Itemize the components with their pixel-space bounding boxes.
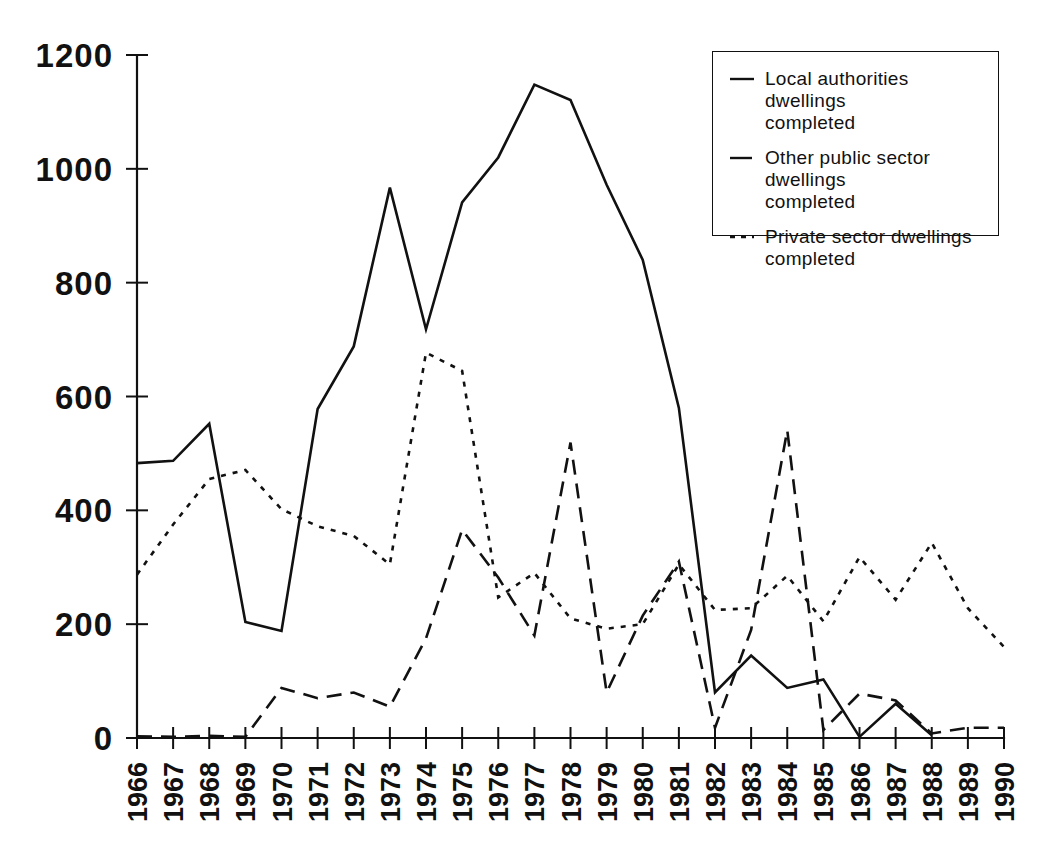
x-axis-tick-label: 1974 (412, 762, 442, 822)
chart-legend: Local authorities dwellings completedOth… (712, 51, 999, 236)
x-axis-tick-label: 1976 (484, 762, 514, 822)
x-axis-tick-label: 1966 (123, 762, 153, 822)
chart-root: 020040060080010001200 196619671968196919… (0, 0, 1045, 862)
x-axis-tick-label: 1970 (268, 762, 298, 822)
legend-item-label: Local authorities dwellings completed (765, 68, 984, 134)
x-axis-tick-label: 1968 (195, 762, 225, 822)
x-axis-tick-label: 1971 (304, 762, 334, 822)
x-axis-tick-label: 1990 (990, 762, 1020, 822)
legend-item-1[interactable]: Other public sector dwellings completed (729, 147, 984, 213)
x-axis-tick-label: 1988 (918, 762, 948, 822)
x-axis-tick-label: 1967 (159, 762, 189, 822)
x-axis-tick-label: 1982 (701, 762, 731, 822)
x-axis-tick-label: 1969 (231, 762, 261, 822)
x-axis-tick-label: 1978 (557, 762, 587, 822)
dashed-line-swatch-icon (729, 147, 755, 169)
x-axis-tick-label: 1984 (773, 762, 803, 822)
series-path-2 (137, 353, 1004, 647)
x-axis-tick-label: 1987 (882, 762, 912, 822)
legend-item-0[interactable]: Local authorities dwellings completed (729, 68, 984, 134)
legend-item-label: Other public sector dwellings completed (765, 147, 984, 213)
y-axis-tick-labels: 020040060080010001200 (36, 37, 113, 757)
y-axis-tick-label: 800 (55, 265, 113, 302)
y-axis-tick-label: 400 (55, 492, 113, 529)
x-axis-tick-label: 1989 (954, 762, 984, 822)
x-axis-tick-label: 1986 (846, 762, 876, 822)
y-axis-tick-label: 0 (94, 720, 113, 757)
y-axis-tick-label: 1200 (36, 37, 113, 74)
y-axis-tick-label: 600 (55, 379, 113, 416)
x-axis-tick-label: 1975 (448, 762, 478, 822)
x-axis-tick-label: 1972 (340, 762, 370, 822)
y-axis-group: 020040060080010001200 (36, 37, 148, 757)
y-axis-tick-label: 200 (55, 606, 113, 643)
x-axis-tick-label: 1979 (593, 762, 623, 822)
series-path-1 (137, 430, 1004, 737)
x-axis-tick-label: 1985 (809, 762, 839, 822)
x-axis-tick-label: 1981 (665, 762, 695, 822)
legend-item-label: Private sector dwellings completed (765, 226, 972, 270)
dotted-line-swatch-icon (729, 226, 755, 248)
solid-line-swatch-icon (729, 68, 755, 90)
x-axis-tick-label: 1983 (737, 762, 767, 822)
y-axis-tick-label: 1000 (36, 151, 113, 188)
x-axis-tick-label: 1973 (376, 762, 406, 822)
x-axis-tick-label: 1980 (629, 762, 659, 822)
x-axis-tick-label: 1977 (520, 762, 550, 822)
x-axis-group: 1966196719681969197019711972197319741975… (123, 727, 1020, 822)
x-axis-tick-labels: 1966196719681969197019711972197319741975… (123, 762, 1020, 822)
legend-item-2[interactable]: Private sector dwellings completed (729, 226, 984, 270)
